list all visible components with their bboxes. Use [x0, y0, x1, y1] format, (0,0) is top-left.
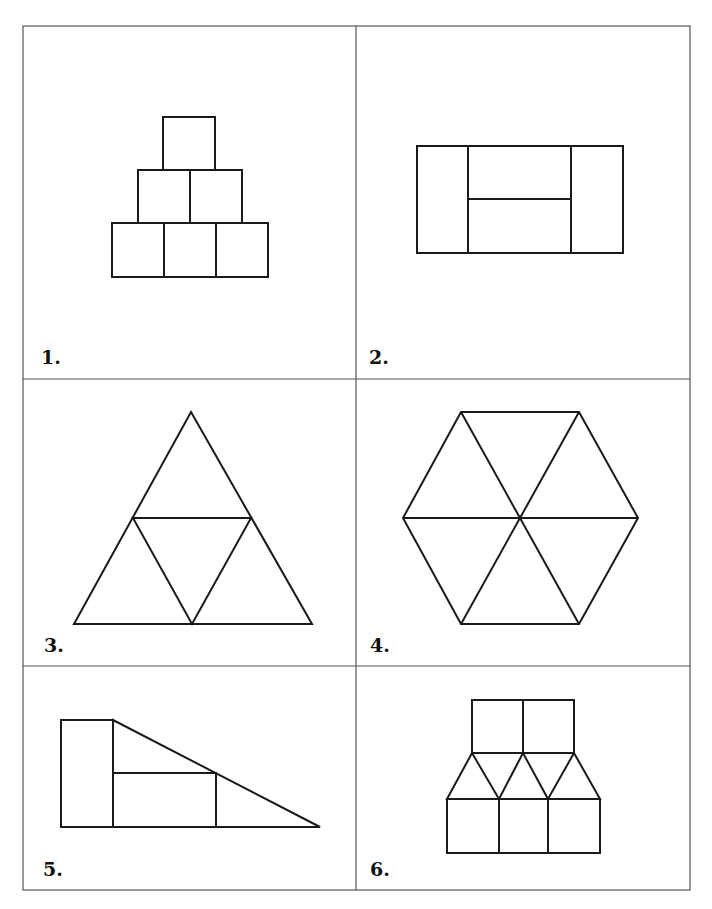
- panel-label-1: 1.: [41, 346, 61, 368]
- panel-label-2: 2.: [369, 346, 389, 368]
- panel-label-3: 3.: [44, 634, 64, 656]
- panel-label-6: 6.: [370, 858, 390, 880]
- figure-4-hexagon: [403, 412, 638, 624]
- panel-label-4: 4.: [370, 634, 390, 656]
- figure-6-squares-triangles: [447, 700, 600, 853]
- figure-5-rect-triangle: [61, 720, 320, 827]
- figure-2-rectangles: [417, 146, 623, 253]
- figure-3-triangles: [74, 412, 312, 624]
- panel-label-5: 5.: [43, 858, 63, 880]
- figure-1-square-pyramid: [112, 117, 268, 277]
- grid-frame: [23, 26, 690, 890]
- worksheet-grid: 1. 2. 3. 4. 5. 6.: [0, 0, 712, 909]
